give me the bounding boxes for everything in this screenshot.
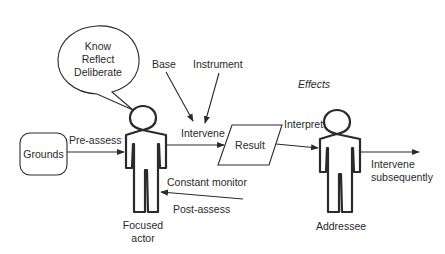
focused-actor-label-line2: actor [131, 232, 155, 244]
instrument-edge: Instrument [193, 58, 243, 123]
intervene-edge: Intervene [166, 127, 225, 145]
intervene-subsequently-line1: Intervene [371, 158, 415, 170]
pre-assess-label: Pre-assess [69, 134, 122, 146]
interpret-label: Interpret [284, 118, 323, 130]
intervene-subsequently-line2: subsequently [371, 171, 434, 183]
grounds-label: Grounds [23, 148, 63, 160]
focused-actor-label-line1: Focused [123, 219, 163, 231]
bubble-line-know: Know [85, 40, 112, 52]
result-node: Result [218, 125, 282, 165]
bubble-line-deliberate: Deliberate [74, 66, 122, 78]
intervene-label: Intervene [181, 127, 225, 139]
base-edge: Base [152, 58, 193, 121]
thought-speech-bubble: Know Reflect Deliberate [58, 26, 139, 110]
focused-actor-figure: Focused actor [123, 106, 166, 244]
constant-monitor-label: Constant monitor [167, 176, 247, 188]
post-assess-edge: Constant monitor Post-assess [161, 176, 247, 215]
actor-intervention-diagram: Know Reflect Deliberate Grounds Pre-asse… [0, 0, 445, 254]
grounds-node: Grounds [20, 133, 67, 175]
bubble-line-reflect: Reflect [82, 53, 115, 65]
instrument-label: Instrument [193, 58, 243, 70]
pre-assess-edge: Pre-assess [67, 134, 124, 152]
addressee-label: Addressee [316, 220, 366, 232]
post-assess-label: Post-assess [173, 203, 230, 215]
base-label: Base [152, 58, 176, 70]
intervene-subsequently-edge: Intervene subsequently [360, 152, 434, 183]
addressee-figure: Addressee [316, 110, 366, 232]
interpret-edge: Interpret [276, 118, 323, 148]
result-label: Result [235, 139, 265, 151]
effects-label: Effects [298, 78, 331, 90]
